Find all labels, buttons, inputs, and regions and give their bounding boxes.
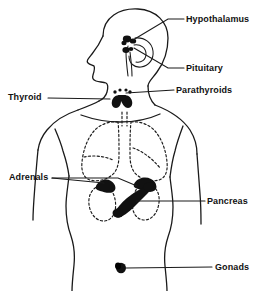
pancreas-gland bbox=[113, 182, 157, 218]
endocrine-system-figure bbox=[0, 0, 266, 291]
left-armpit-line bbox=[55, 129, 69, 176]
trachea-outline bbox=[122, 112, 127, 126]
leader-pituitary bbox=[134, 48, 184, 68]
collarbone-line bbox=[81, 114, 160, 122]
chin-to-shoulder-line bbox=[78, 101, 99, 110]
skull-top-outline bbox=[103, 9, 168, 86]
label-parathyroids: Parathyroids bbox=[176, 85, 232, 95]
label-pancreas: Pancreas bbox=[207, 196, 248, 206]
neck-back-outline bbox=[148, 86, 155, 105]
thyroid-gland bbox=[112, 95, 133, 108]
right-torso-outline bbox=[165, 177, 173, 291]
lung-right-fissure bbox=[133, 148, 160, 168]
face-profile-outline bbox=[87, 36, 107, 101]
label-pituitary: Pituitary bbox=[186, 63, 223, 73]
endocrine-glands bbox=[96, 36, 157, 274]
diagram-page: Hypothalamus Pituitary Parathyroids Thyr… bbox=[0, 0, 266, 291]
leader-parathyroids bbox=[126, 90, 174, 93]
adrenal-left-gland bbox=[96, 180, 116, 193]
label-thyroid: Thyroid bbox=[8, 92, 42, 102]
right-arm-outer-line bbox=[197, 154, 201, 224]
label-gonads: Gonads bbox=[215, 262, 249, 272]
hypothalamus-gland bbox=[121, 36, 136, 46]
body-outline bbox=[33, 9, 201, 291]
leader-hypothalamus bbox=[133, 19, 184, 40]
left-torso-outline bbox=[66, 176, 74, 291]
brainstem-line bbox=[130, 52, 132, 76]
leader-thyroid bbox=[48, 98, 110, 99]
label-adrenals: Adrenals bbox=[9, 172, 48, 182]
label-hypothalamus: Hypothalamus bbox=[186, 14, 249, 24]
left-shoulder-outline bbox=[38, 110, 78, 150]
brainstem-line-2 bbox=[126, 52, 128, 76]
leader-gonads bbox=[126, 267, 212, 268]
right-armpit-line bbox=[170, 126, 183, 177]
left-arm-outer-line bbox=[33, 150, 38, 220]
gonads-gland bbox=[115, 263, 126, 274]
lung-right-outline bbox=[130, 122, 167, 181]
lung-left-fissure bbox=[84, 156, 113, 160]
pituitary-gland bbox=[122, 47, 133, 53]
lung-left-outline bbox=[82, 122, 119, 181]
